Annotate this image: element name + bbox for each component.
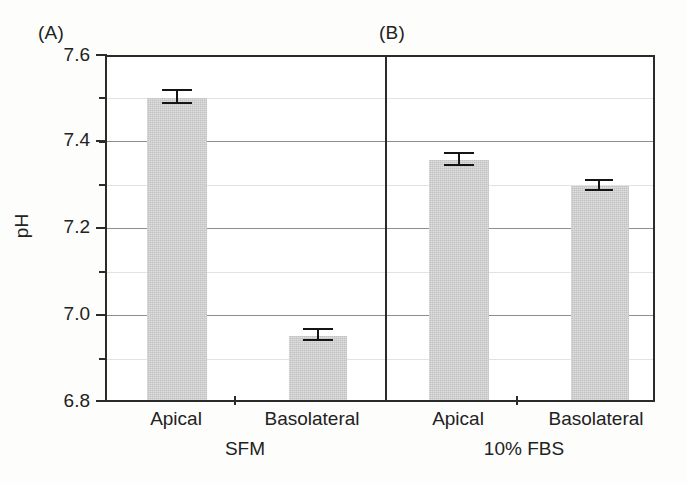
plot-area [105,55,655,402]
bar-basolateral-fbs [571,186,629,400]
errorbar-cap-bottom [444,164,474,166]
panel-letter-b: (B) [379,22,405,44]
x-label-basolateral-sfm: Basolateral [264,408,359,430]
figure-bar-chart-ph: (A) (B) pH 7.6 7.4 7.2 7.0 6.8 [0,0,687,484]
y-tick-label-group: 7.6 7.4 7.2 7.0 6.8 [38,0,90,484]
x-label-apical-sfm: Apical [150,408,202,430]
x-label-apical-fbs: Apical [432,408,484,430]
errorbar-apical-fbs [444,152,474,166]
x-label-basolateral-fbs: Basolateral [548,408,643,430]
bar-texture [147,98,207,400]
x-tick-separator-sfm [234,396,236,405]
bar-apical-fbs [429,160,489,400]
bar-texture [289,336,347,400]
bar-texture [571,186,629,400]
errorbar-apical-sfm [162,89,192,104]
y-tick-label-6-8: 6.8 [38,390,90,412]
y-tick-label-7-6: 7.6 [38,44,90,66]
bar-apical-sfm [147,98,207,400]
errorbar-cap-bottom [162,102,192,104]
errorbar-basolateral-sfm [303,328,333,341]
y-tick-label-7-2: 7.2 [38,216,90,238]
panel-divider [385,57,387,400]
y-tick-label-7-0: 7.0 [38,303,90,325]
errorbar-basolateral-fbs [585,179,613,191]
group-label-fbs: 10% FBS [484,438,564,460]
bar-texture [429,160,489,400]
errorbar-cap-bottom [585,189,613,191]
y-axis-label: pH [11,214,33,238]
group-label-sfm: SFM [225,438,265,460]
y-tick-label-7-4: 7.4 [38,129,90,151]
errorbar-cap-bottom [303,339,333,341]
x-tick-separator-fbs [516,396,518,405]
bar-basolateral-sfm [289,336,347,400]
